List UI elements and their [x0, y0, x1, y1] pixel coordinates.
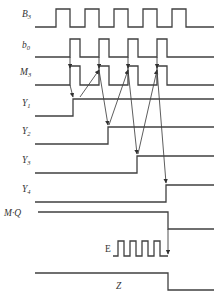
causality-arrow: [109, 70, 128, 125]
signal-MQ: [38, 212, 214, 229]
waveform-trace: [113, 241, 168, 256]
signal-Y2: [35, 127, 214, 144]
signal-label-B3: B3: [22, 9, 32, 20]
signal-Y1: [35, 99, 214, 116]
waveform-trace: [35, 99, 214, 116]
signal-label-b0: b0: [22, 40, 31, 51]
waveform-trace: [35, 185, 214, 202]
waveform-trace: [35, 273, 214, 290]
signal-Z: [35, 273, 214, 290]
signal-label-Z: Z: [116, 281, 122, 291]
signal-label-Y4: Y4: [22, 184, 31, 195]
signal-b0: [35, 39, 214, 57]
signal-label-Y2: Y2: [22, 126, 31, 137]
signal-label-M3: M3: [19, 67, 32, 78]
causality-arrow: [70, 85, 73, 97]
waveform-trace: [35, 39, 214, 57]
timing-diagram: B3b0M3Y1Y2Y3Y4M·QEZ: [0, 0, 222, 298]
waveform-trace: [38, 212, 214, 229]
signal-label-E: E: [105, 244, 111, 254]
signal-M3: [35, 66, 214, 85]
signal-label-Y3: Y3: [22, 155, 31, 166]
signal-Y4: [35, 185, 214, 202]
signal-label-layer: B3b0M3Y1Y2Y3Y4M·QEZ: [3, 9, 122, 291]
signal-E: [113, 241, 168, 256]
waveform-trace: [35, 66, 214, 85]
causality-arrow: [99, 70, 108, 125]
waveform-trace: [35, 9, 214, 27]
waveform-layer: [35, 9, 214, 290]
timing-diagram-canvas: B3b0M3Y1Y2Y3Y4M·QEZ: [0, 0, 222, 298]
waveform-trace: [35, 156, 214, 173]
signal-B3: [35, 9, 214, 27]
signal-Y3: [35, 156, 214, 173]
signal-label-Y1: Y1: [22, 98, 31, 109]
causality-arrow: [128, 70, 137, 154]
waveform-trace: [35, 127, 214, 144]
signal-label-MQ: M·Q: [3, 208, 21, 218]
causality-arrow: [138, 70, 157, 154]
causality-arrow: [80, 70, 99, 97]
